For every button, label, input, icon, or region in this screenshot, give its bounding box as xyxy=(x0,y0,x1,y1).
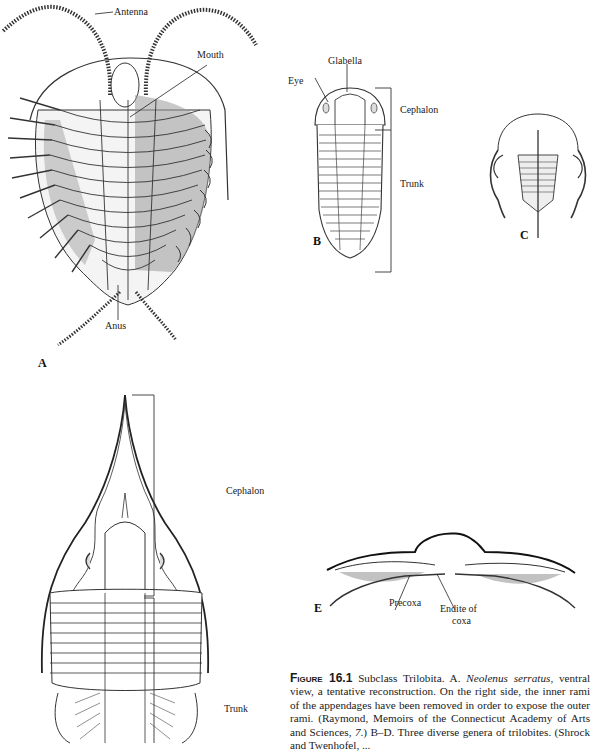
panel-a-illustration xyxy=(0,0,300,345)
label-precoxa: Precoxa xyxy=(389,597,421,608)
label-cephalon-d: Cephalon xyxy=(226,485,264,496)
label-endite-line2: coxa xyxy=(452,615,471,626)
panel-c-illustration xyxy=(483,110,593,240)
label-anus: Anus xyxy=(105,320,126,331)
panel-letter-c: C xyxy=(520,228,529,243)
panel-b-leaders xyxy=(310,64,370,124)
figure-word: Figure xyxy=(290,671,323,685)
panel-e-illustration xyxy=(325,530,585,610)
panel-d-brackets xyxy=(130,393,160,743)
panel-b-brackets xyxy=(375,86,395,276)
caption-species: Neolenus serratus xyxy=(466,672,550,684)
label-mouth: Mouth xyxy=(197,49,224,60)
caption-text-1: Subclass Trilobita. A. xyxy=(352,672,466,684)
label-trunk-d: Trunk xyxy=(224,703,248,714)
panel-letter-b: B xyxy=(313,234,321,249)
panel-letter-a: A xyxy=(38,356,47,371)
label-endite-line1: Endite of xyxy=(440,603,477,614)
figure-caption: Figure 16.1 Subclass Trilobita. A. Neole… xyxy=(290,672,590,752)
label-eye: Eye xyxy=(288,75,304,86)
label-antenna: Antenna xyxy=(114,6,148,17)
label-trunk-b: Trunk xyxy=(400,178,424,189)
figure-number: 16.1 xyxy=(329,671,352,685)
label-glabella: Glabella xyxy=(328,55,362,66)
panel-letter-e: E xyxy=(314,601,322,616)
label-cephalon-b: Cephalon xyxy=(400,104,438,115)
figure-label: Figure 16.1 xyxy=(290,671,352,685)
